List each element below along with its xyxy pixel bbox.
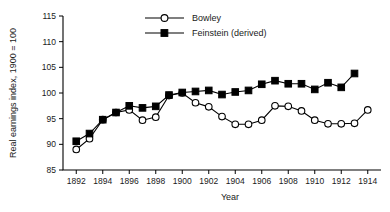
data-point-square — [166, 92, 173, 99]
y-tick-label: 90 — [47, 139, 57, 149]
data-point-circle — [325, 121, 332, 128]
data-point-square — [86, 130, 93, 137]
real-earnings-index-line-chart: 859095100105110115 189218941896189819001… — [0, 0, 390, 212]
data-point-circle — [311, 117, 318, 124]
legend-label-feinstein: Feinstein (derived) — [192, 28, 267, 38]
data-point-square — [338, 84, 345, 91]
chart-container: 859095100105110115 189218941896189819001… — [0, 0, 390, 212]
data-point-circle — [219, 113, 226, 120]
y-axis-tick-group: 859095100105110115 — [42, 11, 63, 175]
y-tick-label: 100 — [42, 88, 56, 98]
data-point-square — [351, 70, 358, 77]
series-line — [76, 93, 368, 149]
x-tick-label: 1894 — [93, 176, 112, 186]
x-tick-label: 1914 — [358, 176, 377, 186]
data-point-square — [245, 87, 252, 94]
legend-item-bowley[interactable]: Bowley — [145, 13, 222, 23]
data-point-square — [298, 80, 305, 87]
data-point-square — [99, 116, 106, 123]
data-point-circle — [364, 107, 371, 114]
series-bowley — [73, 90, 371, 153]
filled-square-icon — [161, 30, 168, 37]
data-point-circle — [338, 121, 345, 128]
data-point-circle — [139, 117, 146, 124]
y-tick-label: 95 — [47, 114, 57, 124]
y-tick-label: 85 — [47, 165, 57, 175]
data-point-square — [205, 87, 212, 94]
data-point-square — [152, 103, 159, 110]
y-tick-label: 115 — [42, 11, 56, 21]
x-axis-tick-group: 1892189418961898190019021904190619081910… — [67, 170, 378, 186]
data-series-group — [73, 70, 371, 153]
data-point-square — [73, 138, 80, 145]
data-point-circle — [298, 108, 305, 115]
data-point-square — [232, 89, 239, 96]
data-point-square — [311, 86, 318, 93]
x-tick-label: 1898 — [146, 176, 165, 186]
open-circle-icon — [161, 15, 168, 22]
data-point-square — [258, 81, 265, 88]
data-point-square — [179, 89, 186, 96]
data-point-square — [192, 88, 199, 95]
data-point-square — [126, 103, 133, 110]
data-point-circle — [192, 99, 199, 106]
x-axis-title: Year — [221, 192, 239, 202]
data-point-square — [219, 91, 226, 98]
y-tick-label: 110 — [42, 37, 56, 47]
x-tick-label: 1896 — [120, 176, 139, 186]
data-point-square — [139, 105, 146, 112]
x-tick-label: 1906 — [252, 176, 271, 186]
x-tick-label: 1910 — [305, 176, 324, 186]
data-point-circle — [258, 117, 265, 124]
data-point-circle — [245, 121, 252, 128]
data-point-circle — [232, 121, 239, 128]
data-point-circle — [272, 103, 279, 110]
data-point-square — [285, 80, 292, 87]
x-tick-label: 1908 — [279, 176, 298, 186]
y-axis-title: Real earnings index, 1900 = 100 — [8, 28, 18, 158]
legend-label-bowley: Bowley — [192, 13, 222, 23]
x-tick-label: 1892 — [67, 176, 86, 186]
data-point-square — [325, 79, 332, 86]
series-line — [76, 73, 354, 141]
x-tick-label: 1902 — [199, 176, 218, 186]
data-point-square — [272, 77, 279, 84]
y-tick-label: 105 — [42, 62, 56, 72]
x-tick-label: 1904 — [226, 176, 245, 186]
x-tick-label: 1900 — [173, 176, 192, 186]
x-tick-label: 1912 — [332, 176, 351, 186]
data-point-square — [113, 109, 120, 116]
data-point-circle — [205, 104, 212, 111]
series-feinstein-derived — [73, 70, 358, 144]
data-point-circle — [351, 120, 358, 127]
chart-legend: Bowley Feinstein (derived) — [145, 13, 267, 38]
data-point-circle — [73, 146, 80, 153]
data-point-circle — [285, 103, 292, 110]
data-point-circle — [152, 114, 159, 121]
legend-item-feinstein[interactable]: Feinstein (derived) — [145, 28, 267, 38]
